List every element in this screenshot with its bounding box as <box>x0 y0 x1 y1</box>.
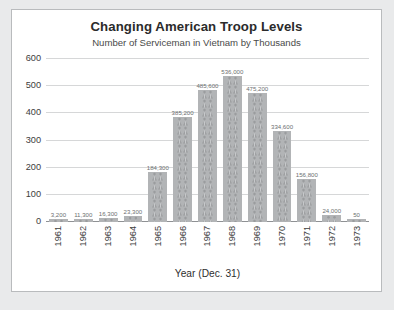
chart-subtitle: Number of Serviceman in Vietnam by Thous… <box>12 37 381 48</box>
bar-slot: 3,2001961 <box>46 59 71 222</box>
bar-slot: 334,6001970 <box>270 59 295 222</box>
bar[interactable]: 156,800 <box>297 179 316 222</box>
bar-value-label: 23,300 <box>124 208 143 215</box>
bar[interactable]: 334,600 <box>273 131 292 222</box>
bar-slot: 24,0001972 <box>319 59 344 222</box>
bar[interactable]: 385,200 <box>173 117 192 222</box>
chart-page: Changing American Troop Levels Number of… <box>0 0 394 310</box>
bar-slot: 156,8001971 <box>294 59 319 222</box>
x-axis-title: Year (Dec. 31) <box>46 268 369 279</box>
y-axis-tick-label: 100 <box>26 189 41 199</box>
bar-value-label: 536,000 <box>221 68 243 75</box>
bar[interactable]: 50 <box>347 219 366 222</box>
bar-slot: 23,3001964 <box>121 59 146 222</box>
y-axis-tick-label: 400 <box>26 107 41 117</box>
y-axis-tick-label: 0 <box>36 216 41 226</box>
bar[interactable]: 3,200 <box>49 219 68 222</box>
bar-value-label: 16,300 <box>99 210 118 217</box>
x-axis-tick-label: 1969 <box>252 226 262 246</box>
bar-slot: 485,6001967 <box>195 59 220 222</box>
bar-slot: 11,3001962 <box>71 59 96 222</box>
bar-series: 3,200196111,300196216,300196323,30019641… <box>46 59 369 222</box>
bar-value-label: 3,200 <box>51 211 66 218</box>
bar-slot: 536,0001968 <box>220 59 245 222</box>
y-axis-tick-label: 300 <box>26 135 41 145</box>
x-axis-tick-label: 1966 <box>178 226 188 246</box>
bar-slot: 16,3001963 <box>96 59 121 222</box>
x-axis-tick-label: 1963 <box>103 226 113 246</box>
x-axis-tick-label: 1972 <box>327 226 337 246</box>
x-axis-tick-label: 1973 <box>352 226 362 246</box>
x-axis-tick-label: 1970 <box>277 226 287 246</box>
x-axis-tick-label: 1962 <box>78 226 88 246</box>
bar-slot: 184,3001965 <box>145 59 170 222</box>
y-axis-tick-label: 200 <box>26 162 41 172</box>
bar-value-label: 475,200 <box>246 85 268 92</box>
chart-panel: Changing American Troop Levels Number of… <box>11 9 382 292</box>
bar-value-label: 485,600 <box>196 82 218 89</box>
bar[interactable]: 184,300 <box>148 172 167 222</box>
bar-value-label: 334,600 <box>271 123 293 130</box>
x-axis-tick-label: 1967 <box>202 226 212 246</box>
x-axis-tick-label: 1964 <box>128 226 138 246</box>
x-axis-tick-label: 1971 <box>302 226 312 246</box>
bar-slot: 501973 <box>344 59 369 222</box>
y-axis-tick-label: 600 <box>26 53 41 63</box>
chart-title: Changing American Troop Levels <box>12 19 381 34</box>
bar-slot: 385,2001966 <box>170 59 195 222</box>
bar-slot: 475,2001969 <box>245 59 270 222</box>
bar[interactable]: 536,000 <box>223 76 242 222</box>
bar[interactable]: 11,300 <box>74 219 93 222</box>
bar-value-label: 156,800 <box>296 171 318 178</box>
x-axis-tick-label: 1961 <box>53 226 63 246</box>
plot-area: 0100200300400500600 3,200196111,30019621… <box>46 59 369 222</box>
x-axis-tick-label: 1965 <box>153 226 163 246</box>
bar[interactable]: 23,300 <box>124 216 143 222</box>
bar-value-label: 11,300 <box>74 211 92 218</box>
bar-value-label: 385,200 <box>172 109 194 116</box>
bar[interactable]: 24,000 <box>322 215 341 222</box>
bar-value-label: 184,300 <box>147 164 169 171</box>
bar-value-label: 24,000 <box>322 207 341 214</box>
bar[interactable]: 16,300 <box>99 218 118 222</box>
bar[interactable]: 485,600 <box>198 90 217 222</box>
y-axis-tick-label: 500 <box>26 80 41 90</box>
bar[interactable]: 475,200 <box>248 93 267 222</box>
bar-value-label: 50 <box>353 211 360 218</box>
x-axis-tick-label: 1968 <box>227 226 237 246</box>
